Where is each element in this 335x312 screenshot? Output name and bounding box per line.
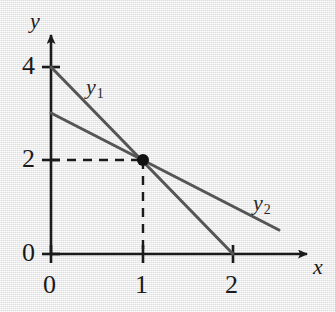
curve-label-y1-sub: 1 xyxy=(97,86,104,101)
curve-label-y1: y1 xyxy=(86,76,103,98)
plot-canvas xyxy=(0,0,335,312)
curve-label-y1-base: y xyxy=(86,74,96,99)
line-y2 xyxy=(51,113,279,230)
y-axis-label: y xyxy=(30,10,40,32)
x-tick-label-2: 2 xyxy=(225,272,238,298)
x-tick-label-0: 0 xyxy=(43,272,56,298)
y-tick-label-4: 4 xyxy=(22,53,35,79)
x-tick-label-1: 1 xyxy=(135,272,148,298)
graph-figure: 4 2 0 0 1 2 y x y1 y2 xyxy=(0,0,335,312)
y-tick-label-0: 0 xyxy=(22,240,35,266)
curve-label-y2-sub: 2 xyxy=(264,202,271,217)
curve-label-y2-base: y xyxy=(253,190,263,215)
y-tick-label-2: 2 xyxy=(22,146,35,172)
curve-label-y2: y2 xyxy=(253,192,270,214)
x-axis-label: x xyxy=(313,256,323,278)
intersection-point xyxy=(137,154,149,166)
